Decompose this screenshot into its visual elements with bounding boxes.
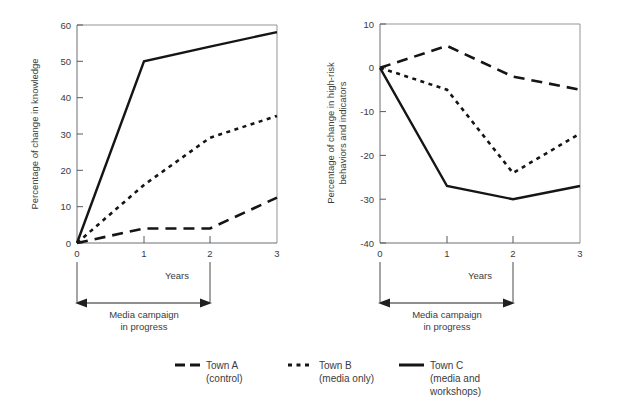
y-tick-label: 50: [60, 56, 71, 67]
x-axis-title-left: Years: [165, 270, 189, 281]
y-tick-label: 60: [60, 20, 71, 31]
legend-label-sub: (control): [206, 373, 243, 384]
y-tick-label: -40: [360, 238, 374, 249]
legend-item-town-a[interactable]: Town A (control): [175, 360, 243, 384]
x-tick-label: 2: [207, 248, 212, 259]
campaign-annotation-line1: Media campaign: [109, 309, 179, 320]
series-line-town-b: [77, 116, 277, 243]
knowledge-chart: 60 50 40 30 20 10 0 Percentage of change…: [29, 20, 280, 333]
campaign-annotation-line2: in progress: [121, 321, 168, 332]
y-tick-label: -20: [360, 150, 374, 161]
x-tick-label: 2: [510, 248, 515, 259]
x-axis-ticks-left: [144, 236, 210, 243]
y-tick-label: -10: [360, 106, 374, 117]
y-tick-label: 0: [66, 238, 71, 249]
series-line-town-a: [77, 198, 277, 243]
y-axis-title-left: Percentage of change in knowledge: [29, 58, 40, 209]
y-axis-title-right-line1: Percentage of change in high-risk: [325, 62, 336, 204]
y-tick-label: -30: [360, 194, 374, 205]
two-panel-line-chart: 60 50 40 30 20 10 0 Percentage of change…: [0, 0, 617, 412]
plot-frame-right: [380, 24, 580, 243]
campaign-bracket-left: [75, 262, 212, 308]
x-tick-label: 0: [74, 248, 79, 259]
campaign-annotation-line2: in progress: [424, 321, 471, 332]
y-tick-label: 30: [60, 129, 71, 140]
y-tick-label: 0: [369, 62, 374, 73]
legend-label-name: Town C: [430, 360, 463, 371]
series-line-town-c: [77, 32, 277, 243]
y-tick-label: 10: [363, 19, 374, 30]
y-tick-label: 10: [60, 201, 71, 212]
legend-item-town-c[interactable]: Town C (media and workshops): [399, 360, 481, 397]
chart-legend: Town A (control) Town B (media only) Tow…: [175, 360, 481, 397]
legend-label-name: Town A: [206, 360, 239, 371]
legend-label-sub: (media and: [430, 373, 480, 384]
legend-label-name: Town B: [319, 360, 352, 371]
high-risk-chart: 10 0 -10 -20 -30 -40 Percentage of chang…: [325, 19, 583, 333]
y-axis-title-right-line2: behaviors and indicators: [337, 81, 348, 184]
campaign-bracket-right: [378, 262, 515, 308]
y-tick-label: 20: [60, 165, 71, 176]
series-line-town-c: [380, 68, 580, 199]
y-axis-ticks-left: [77, 25, 83, 243]
x-tick-label: 1: [141, 248, 146, 259]
plot-axes-right: [380, 24, 580, 243]
legend-item-town-b[interactable]: Town B (media only): [288, 360, 374, 384]
plot-axes-left: [77, 25, 277, 243]
x-tick-label: 3: [577, 248, 582, 259]
y-tick-label: 40: [60, 92, 71, 103]
legend-label-sub2: workshops): [429, 386, 481, 397]
legend-label-sub: (media only): [319, 373, 374, 384]
plot-frame-left: [77, 25, 277, 243]
y-axis-ticks-right: [380, 24, 386, 243]
x-tick-label: 1: [444, 248, 449, 259]
x-axis-title-right: Years: [468, 270, 492, 281]
x-axis-ticks-right: [447, 236, 513, 243]
x-tick-label: 0: [377, 248, 382, 259]
campaign-annotation-line1: Media campaign: [412, 309, 482, 320]
series-line-town-a: [380, 46, 580, 90]
figure-container: 60 50 40 30 20 10 0 Percentage of change…: [0, 0, 617, 412]
x-tick-label: 3: [274, 248, 279, 259]
